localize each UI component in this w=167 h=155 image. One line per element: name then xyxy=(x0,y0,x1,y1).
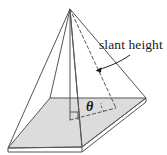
slant-height-label: slant height xyxy=(99,37,163,52)
theta-label: θ xyxy=(86,100,93,114)
pyramid-base-face xyxy=(8,98,146,148)
pyramid-diagram: slant height θ xyxy=(0,0,167,155)
pyramid-svg xyxy=(0,0,167,155)
slant-height-leader-line xyxy=(98,55,130,70)
slant-height-leader-arrowhead xyxy=(96,67,102,72)
pyramid-edge-back-left xyxy=(50,9,70,98)
